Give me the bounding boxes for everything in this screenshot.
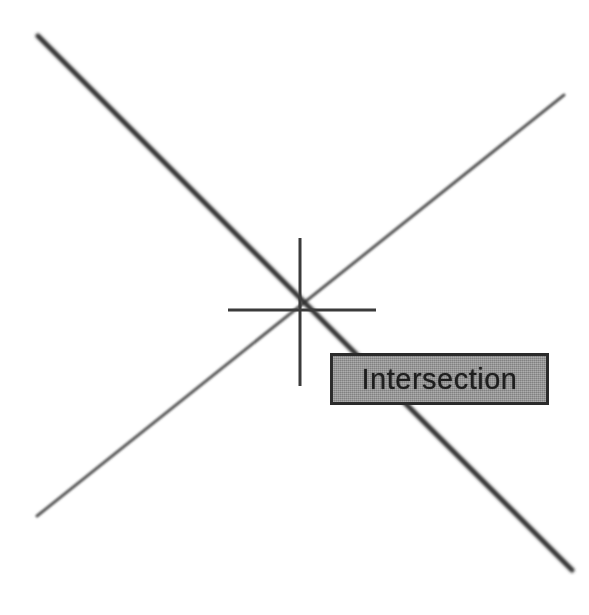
intersection-tooltip-label: Intersection (362, 365, 518, 394)
drawing-vector-layer (0, 0, 589, 615)
cad-drawing-canvas[interactable]: Intersection (0, 0, 589, 615)
intersection-tooltip[interactable]: Intersection (330, 353, 549, 405)
canvas-background (0, 0, 589, 615)
